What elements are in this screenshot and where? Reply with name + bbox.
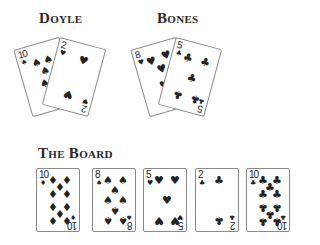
club-icon: ♣ [199,56,211,69]
heart-icon: ♥ [162,195,172,206]
board-card-8-spades: 8 ♠ ♠ ♠ ♠ ♠ ♠ ♠ ♠ ♠ 8 ♠ [92,168,136,232]
heart-icon: ♥ [154,215,164,226]
player-label-doyle: Doyle [39,10,83,27]
diamond-icon: ♦ [48,189,58,200]
player-label-bones: Bones [157,10,198,27]
board-card-10-diamonds: 10 ♦ ♦ ♦ ♦ ♦ ♦ ♦ ♦ ♦ ♦ ♦ 10 ♦ [36,168,80,232]
board-card-2-clubs: 2 ♣ ♣ ♣ 2 ♣ [195,168,239,232]
diamond-icon: ♦ [48,216,58,227]
heart-icon: ♥ [62,88,74,101]
club-icon: ♣ [272,189,282,200]
club-icon: ♣ [258,189,268,200]
club-icon: ♣ [172,88,184,101]
heart-icon: ♥ [77,54,89,67]
board-card-5-hearts: 5 ♥ ♥ ♥ ♥ ♥ ♥ 5 ♥ [143,168,187,232]
board-title: The Board [38,145,113,162]
club-icon: ♣ [214,175,224,186]
club-icon: ♣ [258,216,268,227]
club-icon: ♣ [214,215,224,226]
board-card-10-clubs: 10 ♣ ♣ ♣ ♣ ♣ ♣ ♣ ♣ ♣ ♣ ♣ 10 ♣ [246,168,290,232]
heart-icon: ♥ [154,175,164,186]
club-icon: ♣ [182,51,194,64]
club-icon: ♣ [185,72,197,85]
heart-icon: ♥ [170,175,180,186]
diamond-icon: ♦ [62,189,72,200]
spade-icon: ♠ [103,215,113,226]
